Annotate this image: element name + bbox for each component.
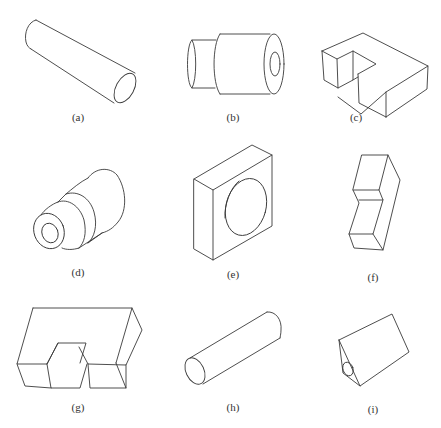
label-d: (d): [72, 266, 85, 279]
panel-a-cylinder: (a): [25, 20, 140, 124]
label-h: (h): [227, 401, 240, 414]
label-a: (a): [72, 111, 85, 124]
panel-i-triangular-prism: (i): [339, 314, 409, 416]
label-e: (e): [227, 268, 240, 281]
panel-h-cylinder: (h): [181, 312, 281, 414]
panel-b-stepped-cylinder: (b): [188, 34, 285, 124]
label-f: (f): [368, 271, 379, 284]
panel-c-notched-block: (c): [322, 33, 428, 124]
label-c: (c): [350, 111, 363, 124]
panel-g-u-block: (g): [17, 308, 142, 414]
label-b: (b): [227, 111, 240, 124]
panel-e-square-block: (e): [194, 145, 273, 281]
panel-f-zigzag-block: (f): [349, 155, 400, 284]
isometric-parts-figure: (a) (b) (c): [0, 0, 441, 428]
label-i: (i): [368, 403, 379, 416]
label-g: (g): [72, 401, 85, 414]
panel-d-stepped-cone: (d): [29, 169, 125, 279]
